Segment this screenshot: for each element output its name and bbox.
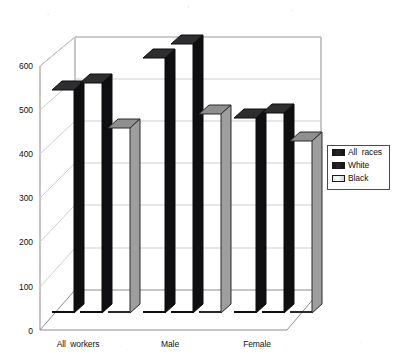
- legend-label: All races: [348, 148, 382, 157]
- bar-all-workers-black: [108, 128, 130, 313]
- bar-female-all-races: [234, 118, 256, 313]
- legend-label: White: [348, 161, 369, 170]
- bar-female-black: [290, 141, 312, 313]
- legend-swatch-icon: [332, 149, 345, 156]
- legend-swatch-icon: [332, 175, 345, 182]
- chart-legend: All races White Black: [327, 145, 390, 190]
- y-tick-label: 500: [5, 106, 33, 115]
- bar-all-workers-all-races: [52, 90, 74, 313]
- bar-male-black: [199, 114, 221, 313]
- legend-label: Black: [348, 174, 368, 183]
- bar-3d-faces: [290, 141, 330, 329]
- bar-all-workers-white: [80, 83, 102, 313]
- bar-female-white: [262, 113, 284, 313]
- bar-chart: 600 500 400 300 200 100 0: [0, 0, 401, 357]
- y-tick-label: 0: [5, 327, 33, 336]
- x-tick-label-all-workers: All workers: [38, 340, 118, 349]
- legend-item-white[interactable]: White: [328, 159, 389, 172]
- legend-item-black[interactable]: Black: [328, 172, 389, 185]
- x-tick-label-male: Male: [140, 340, 200, 349]
- legend-swatch-icon: [332, 162, 345, 169]
- y-tick-label: 600: [5, 62, 33, 71]
- y-tick-label: 400: [5, 150, 33, 159]
- x-tick-label-female: Female: [222, 340, 292, 349]
- bar-male-all-races: [143, 58, 165, 313]
- bar-male-white: [171, 44, 193, 313]
- bar-3d-faces: [199, 114, 239, 328]
- legend-item-all-races[interactable]: All races: [328, 146, 389, 159]
- y-tick-label: 100: [5, 283, 33, 292]
- bar-3d-faces: [108, 128, 148, 328]
- y-tick-label: 200: [5, 238, 33, 247]
- y-tick-label: 300: [5, 194, 33, 203]
